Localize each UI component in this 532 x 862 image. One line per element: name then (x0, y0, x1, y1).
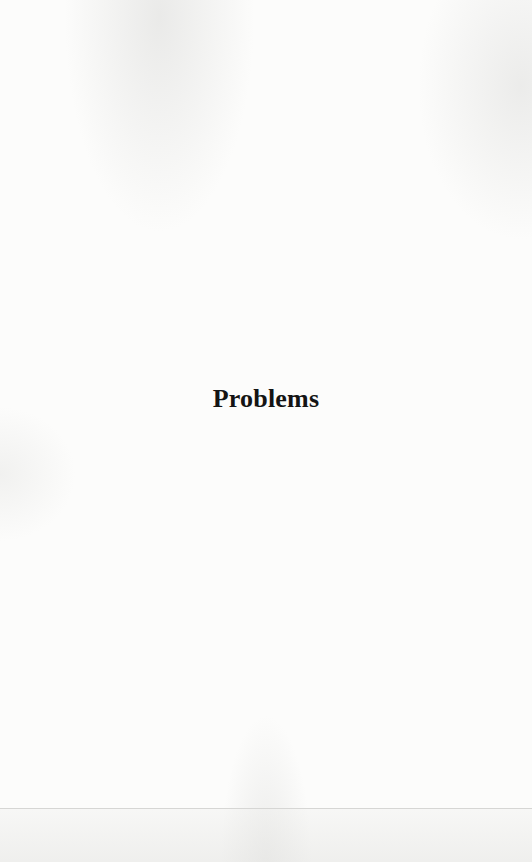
page-bottom-margin (0, 809, 532, 862)
scanned-page: Problems (0, 0, 532, 862)
section-title: Problems (0, 384, 532, 414)
